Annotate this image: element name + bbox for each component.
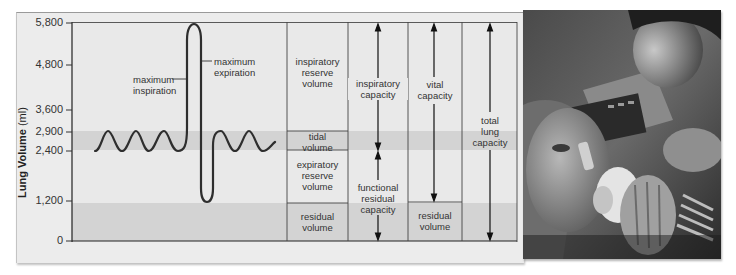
expiratory-reserve-volume-label: expiratory reserve volume: [287, 159, 348, 192]
y-tick-2400: 2,400: [13, 144, 63, 156]
total-lung-capacity-label: total lung capacity: [464, 115, 516, 148]
y-tick-3600: 3,600: [13, 103, 63, 115]
y-tick-5800: 5,800: [13, 16, 63, 28]
residual-volume-label: residual volume: [287, 211, 348, 233]
residual-volume-label-2: residual volume: [408, 210, 462, 232]
y-tick-1200: 1,200: [13, 194, 63, 206]
max-inspiration-label: maximum inspiration: [133, 74, 176, 96]
spirometry-photo: [523, 10, 721, 259]
max-expiration-label: maximum expiration: [214, 56, 255, 78]
y-tick-4800: 4,800: [13, 58, 63, 70]
functional-residual-capacity-label: functional residual capacity: [350, 182, 406, 215]
vital-capacity-label: vital capacity: [408, 79, 462, 101]
y-tick-2900: 2,900: [13, 125, 63, 137]
tidal-volume-label: tidal volume: [287, 131, 348, 153]
inspiratory-reserve-volume-label: inspiratory reserve volume: [287, 56, 348, 89]
inspiratory-capacity-label: inspiratory capacity: [348, 78, 408, 100]
y-axis-title-main: Lung Volume: [16, 129, 28, 198]
y-tick-0: 0: [13, 234, 63, 246]
